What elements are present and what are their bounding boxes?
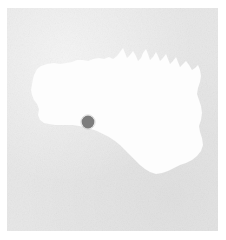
background-plate — [7, 8, 218, 231]
image-canvas — [0, 0, 226, 240]
mask-region — [31, 48, 203, 174]
point-marker-dot — [82, 116, 95, 129]
mask-layer — [7, 8, 218, 231]
